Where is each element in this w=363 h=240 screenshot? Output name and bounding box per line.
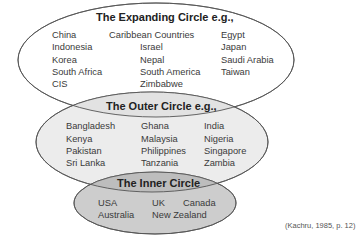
expanding-circle-title: The Expanding Circle e.g., [96, 11, 234, 23]
country-label: Sri Lanka [66, 157, 105, 169]
country-label: China [52, 29, 76, 41]
country-label: Singapore [204, 145, 246, 157]
country-label: Nepal [140, 54, 164, 66]
country-label: Taiwan [221, 66, 250, 78]
inner-circle-title: The Inner Circle [117, 177, 200, 189]
country-label: Philippines [141, 145, 186, 157]
country-label: Pakistan [66, 145, 102, 157]
country-label: Japan [221, 41, 246, 53]
country-label: India [204, 120, 224, 132]
country-label: Canada [183, 197, 216, 209]
country-label: South America [140, 66, 200, 78]
country-label: Egypt [221, 29, 245, 41]
country-label: Indonesia [52, 41, 92, 53]
country-label: Ghana [141, 120, 169, 132]
country-label: Zimbabwe [140, 78, 183, 90]
country-label: Bangladesh [66, 120, 115, 132]
country-label: Tanzania [141, 157, 178, 169]
country-label: Korea [52, 54, 77, 66]
country-label: Saudi Arabia [221, 54, 274, 66]
country-label: New Zealand [152, 209, 207, 221]
country-label: Australia [98, 209, 134, 221]
country-label: Nigeria [204, 133, 233, 145]
country-label: Caribbean Countries [109, 29, 194, 41]
country-label: USA [98, 197, 117, 209]
citation: (Kachru, 1985, p. 12) [285, 221, 355, 230]
country-label: UK [152, 197, 165, 209]
country-label: Kenya [66, 133, 92, 145]
country-label: CIS [52, 78, 68, 90]
country-label: Zambia [204, 157, 235, 169]
country-label: Malaysia [141, 133, 178, 145]
outer-circle-title: The Outer Circle e.g., [106, 100, 217, 112]
country-label: South Africa [52, 66, 102, 78]
country-label: Israel [140, 41, 163, 53]
